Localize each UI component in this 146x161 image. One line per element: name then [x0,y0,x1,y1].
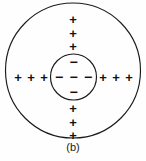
negative-charge-0: − [69,54,77,70]
charged-shell-figure: ++++++++++++ −−−−− (b) [0,0,146,161]
negative-charge-4: − [84,69,92,85]
positive-charge-3: + [69,101,77,116]
positive-charge-9: + [99,70,107,85]
positive-charge-7: + [27,70,35,85]
positive-charge-0: + [69,12,77,27]
negative-charge-1: − [69,84,77,100]
negative-charge-3: − [69,69,77,85]
positive-charge-2: + [69,39,77,54]
positive-charge-8: + [40,70,48,85]
positive-charge-6: + [14,70,22,85]
negative-charge-2: − [55,69,63,85]
caption-layer: (b) [66,141,79,153]
figure-canvas: ++++++++++++ −−−−− (b) [0,0,146,161]
negative-charge-layer: −−−−− [55,54,92,100]
positive-charge-11: + [125,70,133,85]
figure-caption: (b) [66,141,79,153]
positive-charge-10: + [112,70,120,85]
